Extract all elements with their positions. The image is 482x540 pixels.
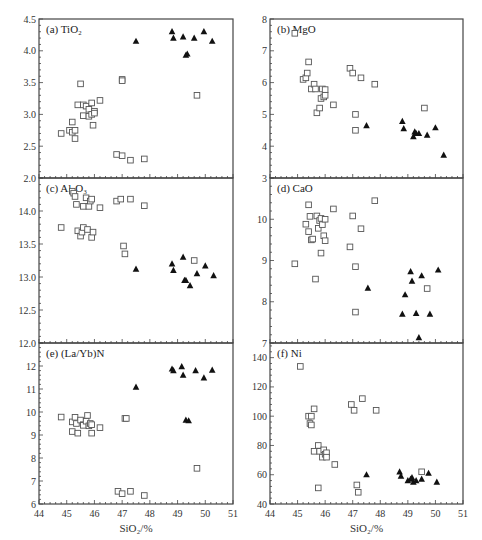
data-point-square <box>58 225 64 231</box>
x-axis-title: SiO₂/% <box>119 522 152 534</box>
data-point-square <box>89 196 95 202</box>
data-point-square <box>358 75 364 81</box>
y-tick-label: 140 <box>252 352 267 363</box>
data-point-square <box>350 70 356 76</box>
data-point-square <box>75 102 81 108</box>
data-point-triangle <box>363 122 370 128</box>
x-tick-label: 46 <box>89 508 99 519</box>
panel-title: (c) Al₂O₃ <box>46 182 87 195</box>
data-point-square <box>119 78 125 84</box>
data-point-triangle <box>178 363 185 369</box>
data-point-square <box>315 443 321 449</box>
data-point-square <box>310 236 316 242</box>
data-point-square <box>324 454 330 460</box>
data-point-triangle <box>180 33 187 39</box>
y-tick-label: 12 <box>26 361 36 372</box>
data-point-square <box>142 493 148 499</box>
data-point-square <box>318 250 324 256</box>
data-point-square <box>353 264 359 270</box>
data-point-triangle <box>363 471 370 477</box>
data-point-square <box>320 222 326 228</box>
data-point-square <box>114 152 120 158</box>
data-point-square <box>353 112 359 118</box>
data-point-triangle <box>180 372 187 378</box>
plot-frame <box>39 178 233 343</box>
panel-d: 78910(d) CaO <box>257 178 463 349</box>
data-point-triangle <box>133 38 140 44</box>
y-tick-label: 14.0 <box>19 206 37 217</box>
data-point-square <box>322 238 328 244</box>
data-point-square <box>419 469 425 475</box>
y-tick-label: 3.5 <box>24 77 37 88</box>
data-point-square <box>194 466 200 472</box>
data-point-triangle <box>365 285 372 291</box>
panel-title: (e) (La/Yb)N <box>46 347 104 360</box>
y-tick-label: 3.0 <box>24 109 37 120</box>
data-point-square <box>85 413 91 419</box>
y-tick-label: 7 <box>262 45 267 56</box>
x-tick-label: 45 <box>62 508 72 519</box>
y-tick-label: 60 <box>257 469 267 480</box>
y-tick-label: 10 <box>257 214 267 225</box>
data-point-triangle <box>187 282 194 288</box>
data-point-square <box>322 216 328 222</box>
data-point-triangle <box>418 272 425 278</box>
y-tick-label: 13.5 <box>19 239 37 250</box>
data-point-square <box>309 413 315 419</box>
data-point-square <box>118 196 124 202</box>
data-point-square <box>292 261 298 267</box>
data-point-triangle <box>133 265 140 271</box>
plot-frame <box>39 343 233 504</box>
data-point-square <box>353 309 359 315</box>
y-tick-label: 12.0 <box>19 338 37 349</box>
data-point-triangle <box>191 34 198 40</box>
data-point-square <box>69 119 75 125</box>
data-point-square <box>89 422 95 428</box>
data-point-triangle <box>202 262 209 268</box>
x-tick-label: 48 <box>375 508 385 519</box>
data-point-square <box>355 489 361 495</box>
data-point-square <box>358 226 364 232</box>
data-point-triangle <box>400 125 407 131</box>
data-point-square <box>306 202 312 208</box>
y-tick-label: 8 <box>31 453 36 464</box>
data-point-triangle <box>396 468 403 474</box>
data-point-triangle <box>194 270 201 276</box>
panel-title: (f) Ni <box>277 347 302 360</box>
data-point-square <box>75 430 81 436</box>
data-point-triangle <box>180 254 187 260</box>
data-point-square <box>128 489 134 495</box>
data-point-square <box>331 206 337 212</box>
y-tick-label: 2.5 <box>24 141 37 152</box>
y-tick-label: 4.0 <box>24 45 37 56</box>
data-point-square <box>86 204 92 210</box>
data-point-square <box>351 408 357 414</box>
data-point-square <box>303 221 309 227</box>
data-point-square <box>306 229 312 235</box>
x-tick-label: 50 <box>200 508 210 519</box>
figure-canvas: 2.02.53.03.54.04.5(a) TiO₂345678(b) MgO1… <box>0 0 482 540</box>
data-point-square <box>360 396 366 402</box>
data-point-triangle <box>399 118 406 124</box>
data-point-square <box>97 98 103 104</box>
data-point-square <box>311 449 317 455</box>
data-point-square <box>313 276 319 282</box>
data-point-square <box>119 491 125 497</box>
data-point-square <box>347 244 353 250</box>
data-point-triangle <box>170 267 177 273</box>
data-point-triangle <box>201 374 208 380</box>
panel-a: 2.02.53.03.54.04.5(a) TiO₂ <box>24 14 234 184</box>
data-point-square <box>322 93 328 99</box>
data-point-square <box>128 157 134 163</box>
data-point-square <box>128 196 134 202</box>
data-point-triangle <box>209 367 216 373</box>
data-point-square <box>119 153 125 159</box>
data-point-square <box>89 100 95 106</box>
x-axis-title: SiO₂/% <box>350 522 383 534</box>
x-tick-label: 50 <box>430 508 440 519</box>
data-point-square <box>142 156 148 162</box>
y-tick-label: 11 <box>26 384 36 395</box>
x-tick-label: 44 <box>34 508 44 519</box>
data-point-square <box>424 286 430 292</box>
data-point-triangle <box>209 38 216 44</box>
